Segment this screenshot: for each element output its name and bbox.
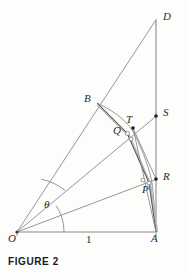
point-label-T: T [126,114,132,125]
figure-caption: FIGURE 2 [8,256,59,267]
point-label-P: P [142,184,149,195]
angle-arc-theta [56,206,64,232]
point-label-R: R [163,171,170,182]
point-marker-T [131,126,135,130]
point-marker-S [154,114,158,118]
figure-2-container: O A D B S T Q R P θ 1 FIGURE 2 [0,0,187,273]
point-label-B: B [84,93,91,104]
point-marker-R [154,177,158,181]
unit-length-label: 1 [86,234,92,245]
segment-chord-BQ [97,103,127,133]
ray-OR [17,179,157,232]
angle-label-theta: θ [44,199,49,210]
ray-OS [17,116,157,233]
ring-marker-P-outer [141,178,145,182]
ring-marker-Q-outer [129,137,133,141]
geometry-diagram [0,0,187,273]
ring-marker-Q [126,132,130,136]
ray-OD [17,19,157,232]
point-label-A: A [151,233,158,244]
point-label-D: D [163,11,171,22]
point-label-Q: Q [113,125,121,136]
point-label-O: O [8,233,16,244]
point-label-S: S [163,107,169,118]
